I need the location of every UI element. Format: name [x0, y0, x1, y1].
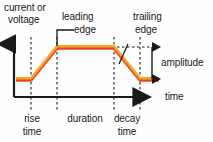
leading-edge-label-line1: leading	[62, 11, 94, 23]
pulse-waveform-figure: current or voltage leading edge trailing…	[0, 0, 213, 142]
duration-label: duration	[62, 113, 108, 125]
rise-time-label-line1: rise	[20, 113, 44, 125]
trailing-edge-label-line2: edge	[135, 24, 157, 36]
y-axis-label-line1: current or	[4, 2, 46, 14]
decay-time-label-line1: decay	[111, 113, 143, 125]
y-axis-label-line2: voltage	[8, 14, 40, 26]
leading-edge-leader-line	[57, 30, 74, 46]
decay-time-label-line2: time	[111, 126, 143, 138]
rise-time-label-line2: time	[20, 126, 44, 138]
trailing-edge-label-line1: trailing	[133, 11, 162, 23]
x-axis-label: time	[165, 91, 184, 103]
leading-edge-label-line2: edge	[74, 24, 96, 36]
amplitude-label: amplitude	[161, 57, 203, 69]
